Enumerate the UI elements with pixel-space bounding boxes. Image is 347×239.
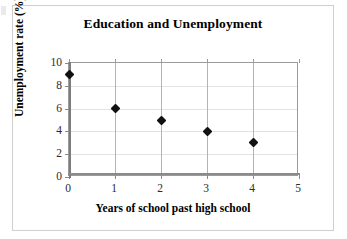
x-tick-label: 4 xyxy=(240,182,264,194)
gridline-horizontal xyxy=(69,131,297,132)
data-point xyxy=(248,138,258,148)
gridline-vertical xyxy=(115,63,116,175)
y-tick-label: 8 xyxy=(40,79,62,91)
x-axis-line xyxy=(68,173,300,175)
x-tick-label: 2 xyxy=(148,182,172,194)
y-tick-label: 0 xyxy=(40,170,62,182)
gridline-vertical xyxy=(253,63,254,175)
data-point xyxy=(202,126,212,136)
gridline-horizontal xyxy=(69,109,297,110)
data-point xyxy=(110,104,120,114)
y-tick-label: 4 xyxy=(40,124,62,136)
plot-area xyxy=(68,62,298,176)
x-tick-mark xyxy=(299,175,300,179)
x-axis-title: Years of school past high school xyxy=(12,202,334,214)
chart-title: Education and Unemployment xyxy=(12,16,334,32)
y-tick-label: 2 xyxy=(40,147,62,159)
x-tick-mark xyxy=(115,175,116,179)
x-tick-mark xyxy=(207,175,208,179)
y-tick-label: 10 xyxy=(40,56,62,68)
gridline-vertical xyxy=(207,63,208,175)
x-tick-mark-top xyxy=(299,59,300,63)
data-point xyxy=(156,115,166,125)
scan-artifact xyxy=(1,6,6,15)
x-tick-mark xyxy=(253,175,254,179)
x-tick-mark-top xyxy=(253,59,254,63)
x-tick-mark xyxy=(161,175,162,179)
gridline-horizontal xyxy=(69,154,297,155)
x-tick-mark-top xyxy=(207,59,208,63)
x-tick-label: 0 xyxy=(56,182,80,194)
x-tick-label: 5 xyxy=(286,182,310,194)
chart-figure: Education and Unemployment Unemployment … xyxy=(0,0,347,239)
y-tick-label: 6 xyxy=(40,102,62,114)
x-tick-mark-top xyxy=(115,59,116,63)
y-axis-title: Unemployment rate (%) xyxy=(13,0,29,148)
gridline-horizontal xyxy=(69,86,297,87)
x-tick-mark-top xyxy=(161,59,162,63)
x-tick-label: 3 xyxy=(194,182,218,194)
x-tick-label: 1 xyxy=(102,182,126,194)
